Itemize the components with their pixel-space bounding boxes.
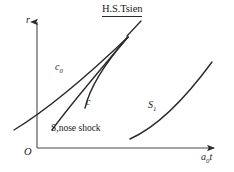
annotation-tsien: H.S.Tsien [102,4,142,17]
annotation-s1-sub: 1 [153,105,156,112]
figure-canvas [0,0,234,172]
annotation-s1: S1 [148,100,156,113]
figure-container: H.S.Tsien c0 c S1 S,nose shock O r a0t [0,0,234,172]
curves-group [14,21,212,139]
curve-c0 [14,37,128,130]
annotation-c: c [86,97,90,107]
x-axis-label: a0t [201,152,212,165]
annotation-nose-shock: S,nose shock [51,124,101,134]
annotation-c0: c0 [55,62,63,75]
axis-origin-label: O [24,147,32,158]
curve-c [85,37,128,108]
y-axis-label: r [26,15,30,25]
annotation-c0-sub: 0 [59,67,62,74]
curve-s1 [130,62,212,139]
x-axis-label-tail: t [209,151,212,162]
tsien-leader-line [127,21,141,36]
